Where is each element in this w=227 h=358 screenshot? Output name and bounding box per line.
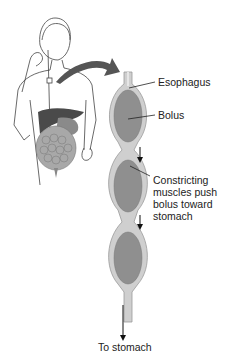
bolus-1 (114, 90, 142, 142)
label-esophagus: Esophagus (158, 76, 211, 88)
bolus-2 (114, 160, 142, 212)
label-to-stomach: To stomach (98, 341, 152, 353)
curved-arrow (56, 58, 120, 84)
diagram-canvas: Esophagus Bolus Constricting muscles pus… (0, 0, 227, 358)
label-muscles: Constricting muscles push bolus toward s… (153, 174, 217, 222)
label-bolus: Bolus (158, 109, 184, 121)
digestive-organs (36, 108, 84, 178)
bolus-3 (114, 232, 142, 284)
